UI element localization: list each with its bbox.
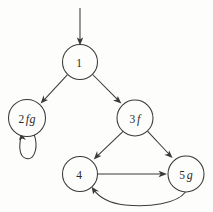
- edge-5-to-4-arrowhead: [92, 187, 100, 194]
- edge-3-to-5-arrowhead: [164, 150, 172, 158]
- edge-3-to-5: [148, 131, 173, 158]
- edge-1-to-3-arrowhead: [113, 96, 121, 104]
- edge-4-to-5: [98, 171, 168, 177]
- diagram-canvas: 1 2fg 3f 4 5g: [0, 0, 213, 212]
- edge-3-to-4: [94, 131, 123, 159]
- edge-5-to-4-curve: [94, 190, 186, 206]
- edge-3-to-5-line: [148, 131, 170, 155]
- node-circle-3[interactable]: [117, 100, 153, 136]
- graph-svg: [0, 0, 213, 212]
- node-circle-1[interactable]: [63, 45, 98, 80]
- edge-5-to-4: [92, 187, 186, 206]
- edge-1-to-2: [41, 75, 68, 104]
- edge-1-to-3: [93, 75, 122, 104]
- edge-3-to-4-line: [97, 131, 124, 156]
- edge-1-to-3-line: [93, 75, 119, 101]
- edge-3-to-4-arrowhead: [94, 151, 102, 159]
- node-circle-2[interactable]: [9, 100, 46, 137]
- node-circle-4[interactable]: [63, 157, 98, 192]
- edge-start-to-1: [77, 8, 83, 46]
- node-circle-5[interactable]: [168, 156, 204, 192]
- edge-1-to-2-line: [43, 75, 67, 101]
